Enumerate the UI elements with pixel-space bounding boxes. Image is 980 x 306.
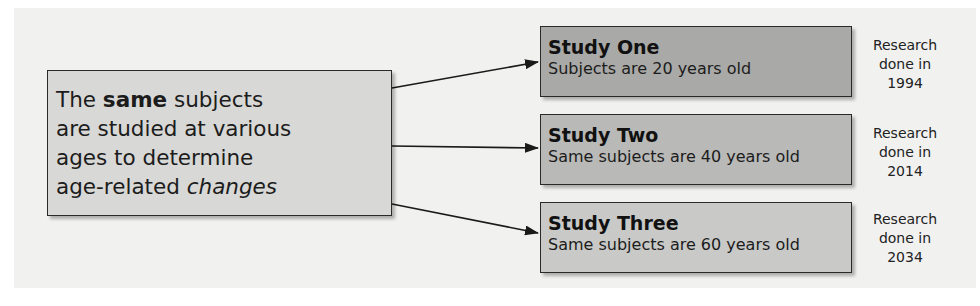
arrow-to-study-three <box>392 204 538 233</box>
source-line-1: The same subjects <box>56 85 391 114</box>
source-line-3: ages to determine <box>56 143 391 172</box>
study-title: Study Two <box>548 124 851 146</box>
study-three-box: Study Three Same subjects are 60 years o… <box>540 202 852 273</box>
research-year: 2034 <box>862 248 948 267</box>
research-year: 2014 <box>862 162 948 181</box>
emphasis-same: same <box>103 87 167 112</box>
study-description: Same subjects are 60 years old <box>548 234 851 256</box>
research-year: 1994 <box>862 74 948 93</box>
arrow-to-study-two <box>392 146 538 148</box>
study-description: Same subjects are 40 years old <box>548 146 851 168</box>
emphasis-changes: changes <box>187 174 277 199</box>
study-title: Study One <box>548 36 851 58</box>
source-line-4: age-related changes <box>56 172 391 201</box>
research-date-note-2034: Research done in 2034 <box>862 210 948 267</box>
research-date-note-2014: Research done in 2014 <box>862 124 948 181</box>
study-two-box: Study Two Same subjects are 40 years old <box>540 114 852 185</box>
source-box: The same subjects are studied at various… <box>47 70 392 216</box>
study-one-box: Study One Subjects are 20 years old <box>540 26 852 97</box>
source-line-2: are studied at various <box>56 114 391 143</box>
study-title: Study Three <box>548 212 851 234</box>
arrow-to-study-one <box>392 62 538 88</box>
research-date-note-1994: Research done in 1994 <box>862 36 948 93</box>
study-description: Subjects are 20 years old <box>548 58 851 80</box>
